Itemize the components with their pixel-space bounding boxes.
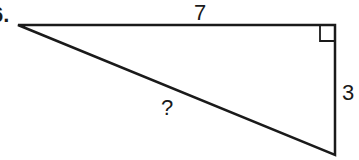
triangle-shape	[18, 25, 335, 155]
right-triangle-diagram	[0, 0, 359, 160]
right-angle-marker-icon	[320, 25, 335, 41]
top-leg-label: 7	[194, 2, 206, 24]
right-leg-label: 3	[342, 82, 354, 104]
hypotenuse-label: ?	[161, 97, 173, 119]
